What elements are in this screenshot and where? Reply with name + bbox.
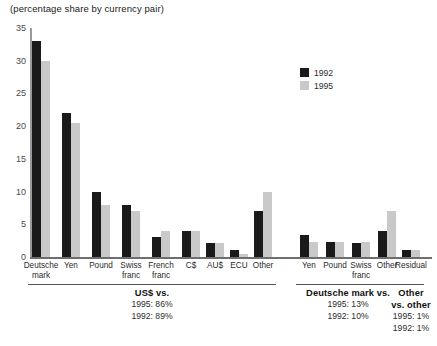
group-caption-other-vs-other: Othervs. other1995: 1%1992: 1% [391, 287, 431, 334]
category-label: Residual [395, 261, 427, 271]
category-label: AU$ [207, 261, 223, 271]
group-rule-other-vs-other [398, 284, 424, 285]
legend-label-1995: 1995 [314, 81, 333, 91]
category-label: Pound [89, 261, 113, 271]
group-caption-line: 1995: 1% [391, 311, 431, 323]
group-caption-line: 1992: 89% [131, 311, 172, 323]
category-label-line2: franc [350, 271, 371, 281]
chart-legend: 1992 1995 [300, 66, 333, 92]
group-rule-usd-vs [28, 284, 276, 285]
legend-swatch-1992 [300, 68, 309, 77]
category-label: ECU [230, 261, 247, 271]
group-caption-dm-vs: Deutsche mark vs.1995: 13%1992: 10% [306, 287, 390, 322]
category-label: Pound [323, 261, 347, 271]
group-title: Deutsche mark vs. [306, 287, 390, 299]
category-label: Swissfranc [120, 261, 141, 280]
group-caption-line: 1992: 10% [306, 311, 390, 323]
category-label: C$ [186, 261, 196, 271]
category-label-line2: franc [148, 271, 173, 281]
category-label: Other [253, 261, 273, 271]
group-title-line2: vs. other [391, 299, 431, 311]
category-label: Swissfranc [350, 261, 371, 280]
category-label: Yen [64, 261, 78, 271]
category-label: Frenchfranc [148, 261, 173, 280]
legend-item-1995: 1995 [300, 79, 333, 92]
group-caption-line: 1995: 13% [306, 299, 390, 311]
bar-chart: (percentage share by currency pair) 0510… [0, 0, 437, 346]
category-label: Yen [302, 261, 316, 271]
group-caption-line: 1995: 86% [131, 299, 172, 311]
group-rule-dm-vs [296, 284, 400, 285]
category-label-line2: mark [24, 271, 59, 281]
category-label: Deutschemark [24, 261, 59, 280]
group-title: Other [391, 287, 431, 299]
group-caption-line: 1992: 1% [391, 323, 431, 335]
group-caption-usd-vs: US$ vs.1995: 86%1992: 89% [131, 287, 172, 322]
legend-label-1992: 1992 [314, 68, 333, 78]
legend-swatch-1995 [300, 81, 309, 90]
category-label-line2: franc [120, 271, 141, 281]
group-title: US$ vs. [131, 287, 172, 299]
legend-item-1992: 1992 [300, 66, 333, 79]
